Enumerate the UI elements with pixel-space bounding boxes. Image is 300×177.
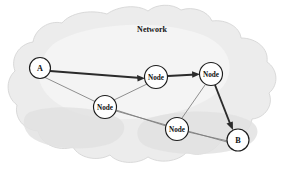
node-relay-1[interactable]: Node (145, 66, 168, 89)
network-diagram: A Node Node Node Node B (0, 0, 300, 177)
node-a[interactable]: A (30, 58, 51, 79)
node-relay-3[interactable]: Node (94, 96, 117, 119)
node-b-label: B (235, 136, 241, 145)
node-relay-3-label: Node (97, 104, 113, 112)
node-relay-2-label: Node (203, 71, 219, 79)
node-b[interactable]: B (227, 129, 249, 151)
network-diagram-canvas: A Node Node Node Node B (0, 0, 300, 177)
node-relay-4-label: Node (169, 126, 185, 134)
node-relay-1-label: Node (148, 74, 164, 82)
network-title: Network (137, 25, 167, 34)
node-a-label: A (37, 64, 43, 73)
node-relay-2[interactable]: Node (200, 63, 223, 86)
node-relay-4[interactable]: Node (166, 118, 189, 141)
